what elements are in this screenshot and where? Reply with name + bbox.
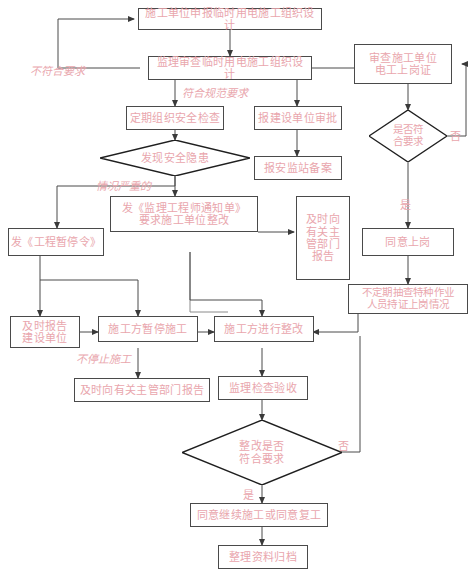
node-label: 施工方暂停施工 <box>106 323 189 335</box>
node-label: 是否符 合要求 <box>393 124 424 148</box>
branch-label-rectify-yes: 是 <box>243 486 254 502</box>
node-approve-posting[interactable]: 同意上岗 <box>362 228 454 256</box>
node-label: 及时向有关主管部门报告 <box>78 384 206 396</box>
node-label: 整改是否 符合要求 <box>239 440 284 465</box>
node-label: 审查施工单位 电工上岗证 <box>367 52 439 77</box>
node-contractor-submit-plan[interactable]: 施工单位申报临时用电施工组织设计 <box>138 8 322 30</box>
node-contractor-rectify[interactable]: 施工方进行整改 <box>214 316 314 342</box>
flowchart-canvas: 施工单位申报临时用电施工组织设计 监理审查临时用电施工组织设计 审查施工单位 电… <box>0 0 475 577</box>
node-file-safety-bureau[interactable]: 报安监站备案 <box>254 156 342 180</box>
node-report-owner-timely[interactable]: 及时报告 建设单位 <box>10 316 80 348</box>
node-review-electrician-license[interactable]: 审查施工单位 电工上岗证 <box>354 44 452 84</box>
node-archive-documents[interactable]: 整理资料归档 <box>218 545 308 569</box>
node-approve-resume-work[interactable]: 同意继续施工或同意复工 <box>190 503 328 527</box>
node-label: 发《监理工程师通知单》 要求施工单位整改 <box>120 202 248 227</box>
node-label: 定期组织安全检查 <box>128 112 222 124</box>
node-submit-owner-approval[interactable]: 报建设单位审批 <box>254 106 342 130</box>
node-random-license-check[interactable]: 不定期抽查特种作业 人员持证上岗情况 <box>348 284 468 314</box>
node-label: 及时向 有关主 管部门 报告 <box>304 213 342 262</box>
edge-label-serious-situation: 情况严重的 <box>96 177 151 193</box>
node-label: 及时报告 建设单位 <box>20 320 69 345</box>
node-label: 同意继续施工或同意复工 <box>195 509 323 521</box>
node-issue-stop-work-order[interactable]: 发《工程暂停令》 <box>8 228 104 256</box>
node-label: 整理资料归档 <box>227 551 299 563</box>
node-license-meets-requirements[interactable]: 是否符 合要求 <box>369 110 447 162</box>
node-label: 监理检查验收 <box>227 382 299 394</box>
node-label: 发现安全隐患 <box>141 152 209 164</box>
node-label: 施工单位申报临时用电施工组织设计 <box>139 7 321 32</box>
node-label: 不定期抽查特种作业 人员持证上岗情况 <box>360 287 457 311</box>
node-issue-supervisor-notice[interactable]: 发《监理工程师通知单》 要求施工单位整改 <box>110 196 258 232</box>
edge-label-not-compliant: 不符合要求 <box>30 62 85 78</box>
node-supervisor-review-plan[interactable]: 监理审查临时用电施工组织设计 <box>148 56 312 80</box>
branch-label-rectify-no: 否 <box>338 437 349 453</box>
node-label: 报安监站备案 <box>262 162 334 174</box>
branch-label-license-yes: 是 <box>400 196 411 212</box>
node-label: 同意上岗 <box>383 236 432 248</box>
node-found-safety-hazard[interactable]: 发现安全隐患 <box>100 140 250 176</box>
node-rectification-meets-requirements[interactable]: 整改是否 符合要求 <box>182 420 342 485</box>
node-supervisor-acceptance-check[interactable]: 监理检查验收 <box>218 376 308 400</box>
edge-label-not-stopping-work: 不停止施工 <box>76 350 131 366</box>
node-label: 发《工程暂停令》 <box>9 236 103 248</box>
branch-label-license-no: 否 <box>450 127 461 143</box>
node-report-authority-no-stop[interactable]: 及时向有关主管部门报告 <box>74 378 210 402</box>
node-periodic-safety-inspection[interactable]: 定期组织安全检查 <box>126 106 224 130</box>
node-label: 监理审查临时用电施工组织设计 <box>149 56 311 81</box>
edge-label-compliant: 符合规范要求 <box>182 84 248 100</box>
node-label: 施工方进行整改 <box>222 323 305 335</box>
node-contractor-suspend-work[interactable]: 施工方暂停施工 <box>98 316 198 342</box>
node-report-authority-timely[interactable]: 及时向 有关主 管部门 报告 <box>296 196 350 280</box>
node-label: 报建设单位审批 <box>256 112 339 124</box>
